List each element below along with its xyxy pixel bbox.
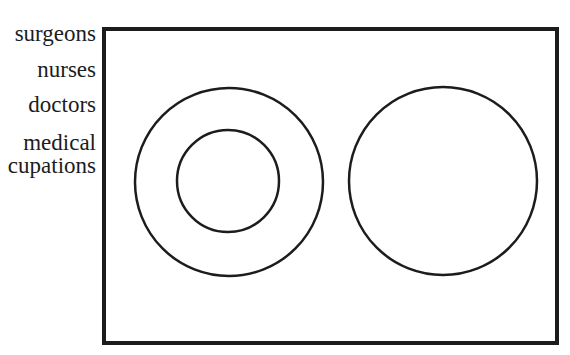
outer-left-circle xyxy=(135,88,323,276)
universe-rectangle xyxy=(104,29,557,343)
right-circle xyxy=(349,87,537,275)
inner-left-circle xyxy=(177,130,279,232)
euler-diagram xyxy=(0,0,570,355)
